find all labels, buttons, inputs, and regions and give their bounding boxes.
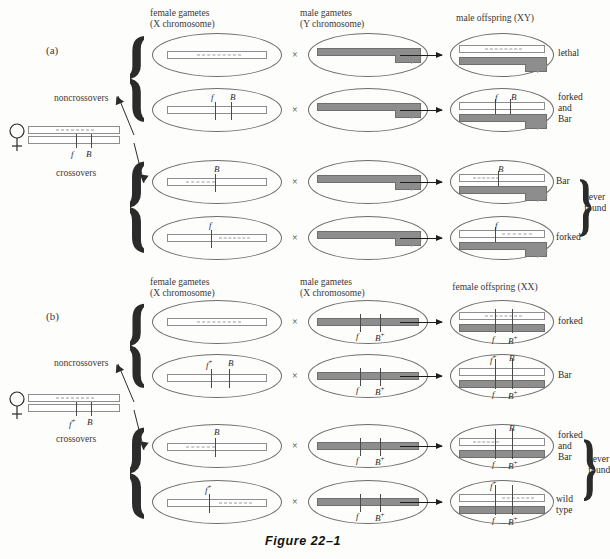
row1-offspring-x-maternal bbox=[459, 312, 545, 320]
row1-x-chromosome bbox=[167, 51, 267, 59]
panel-a-row1-arrow bbox=[400, 55, 442, 56]
row4-offspring-y bbox=[459, 242, 547, 258]
row2-offspring-gene-B-plus: B+ bbox=[508, 389, 517, 401]
row4-gene-label-f-plus: f+ bbox=[205, 483, 211, 495]
gene-tick-f bbox=[360, 368, 361, 386]
gene-tick-f-plus bbox=[209, 494, 210, 513]
row1-offspring-gene-f: f bbox=[492, 334, 495, 344]
panel-a-row4-arrow bbox=[400, 238, 442, 239]
panel-b-row4-offspring: f+ f B+ bbox=[450, 480, 554, 524]
panel-a-row1-cross-symbol: × bbox=[292, 49, 298, 60]
row3-male-gene-f: f bbox=[356, 455, 359, 465]
row1-offspring-x bbox=[459, 45, 545, 53]
row2-gene-label-f: f bbox=[211, 92, 214, 102]
row2-offspring-y bbox=[459, 114, 547, 130]
row2-gene-label-B: B bbox=[228, 358, 234, 368]
panel-b-parent: f+ B bbox=[6, 390, 126, 424]
panel-b-header-offspring: female offspring (XX) bbox=[430, 282, 560, 293]
panel-b-row2-female-gamete: f+ B bbox=[152, 354, 282, 398]
gene-tick-f bbox=[360, 494, 361, 512]
row3-offspring-gene-f: f bbox=[492, 459, 495, 469]
gene-tick-f-plus bbox=[211, 369, 212, 388]
panel-a-header-female-gametes: female gametes (X chromosome) bbox=[150, 8, 270, 30]
panel-b-crossovers-label: crossovers bbox=[56, 434, 96, 444]
gene-tick-B-plus bbox=[380, 438, 381, 456]
panel-b-row4-cross-symbol: × bbox=[292, 496, 298, 507]
row4-offspring-x-paternal bbox=[459, 506, 545, 514]
row4-offspring-gene-B-plus: B+ bbox=[508, 515, 517, 527]
panel-b-row3-offspring: B f B+ bbox=[450, 424, 554, 468]
gene-tick-B bbox=[231, 102, 232, 120]
row4-offspring-gene-f-plus: f+ bbox=[490, 479, 496, 491]
panel-b-never-found-note: never found bbox=[588, 454, 610, 476]
gene-tick-f bbox=[215, 102, 216, 120]
gene-tick-f-plus bbox=[76, 402, 77, 416]
row4-x-chromosome bbox=[167, 499, 267, 507]
row2-male-gene-B-plus: B+ bbox=[375, 385, 384, 397]
gene-tick-f bbox=[495, 309, 496, 333]
parent-gene-label-B: B bbox=[86, 149, 92, 159]
gene-tick-B bbox=[215, 174, 216, 192]
gene-tick-B-plus bbox=[512, 359, 513, 389]
row2-offspring-gene-f: f bbox=[495, 92, 498, 102]
row4-offspring-gene-f: f bbox=[495, 220, 498, 230]
panel-a-row1-offspring bbox=[450, 33, 554, 77]
row4-male-gene-B-plus: B+ bbox=[375, 511, 384, 523]
parent-gene-label-f: f bbox=[71, 149, 74, 159]
panel-b-row3-cross-symbol: × bbox=[292, 440, 298, 451]
panel-a-brace-noncrossovers: { bbox=[130, 24, 144, 122]
gene-tick-B-plus bbox=[380, 494, 381, 512]
row2-x-chromosome bbox=[167, 374, 267, 382]
panel-b-row1-arrow bbox=[400, 322, 442, 323]
panel-a-label: (a) bbox=[46, 44, 58, 56]
row2-gene-label-f-plus: f+ bbox=[206, 358, 212, 370]
row3-gene-label-B: B bbox=[214, 164, 220, 174]
panel-a-crossovers-label: crossovers bbox=[56, 168, 96, 178]
panel-a-never-found-note: never found bbox=[584, 192, 606, 214]
row1-y-chromosome bbox=[317, 48, 421, 66]
row2-offspring-gene-f-plus: f+ bbox=[490, 353, 496, 365]
panel-b-brace-crossovers: { bbox=[130, 416, 144, 520]
panel-b-header-male-gametes: male gametes (X chromosome) bbox=[300, 277, 420, 299]
row3-offspring-gene-B: B bbox=[509, 423, 515, 433]
panel-b-brace-noncrossovers: { bbox=[130, 292, 144, 388]
panel-a-row3-offspring: B bbox=[450, 160, 554, 204]
panel-a-row3-cross-symbol: × bbox=[292, 176, 298, 187]
gene-tick-f bbox=[495, 429, 496, 459]
panel-b-parent-chromosomes: f+ B bbox=[28, 394, 120, 412]
gene-tick-B bbox=[91, 134, 92, 148]
parent-chromosome-top bbox=[28, 394, 120, 402]
row1-offspring-y bbox=[459, 57, 547, 73]
row1-offspring-x-paternal bbox=[459, 324, 545, 332]
panel-a-row1-female-gamete bbox=[152, 33, 282, 77]
figure-caption: Figure 22–1 bbox=[0, 534, 606, 548]
row3-male-gene-B-plus: B+ bbox=[375, 455, 384, 467]
row1-male-gene-B-plus: B+ bbox=[375, 331, 384, 343]
row3-offspring-y bbox=[459, 186, 547, 202]
panel-b-row3-arrow bbox=[400, 446, 442, 447]
gene-tick-B bbox=[229, 369, 230, 388]
panel-a-row1-outcome: lethal bbox=[558, 48, 579, 59]
gene-tick-f bbox=[360, 438, 361, 456]
gene-tick-B-plus bbox=[380, 368, 381, 386]
panel-b-noncrossovers-label: noncrossovers bbox=[54, 358, 108, 368]
row3-offspring-x bbox=[459, 174, 545, 182]
panel-a-parent: f B bbox=[6, 122, 126, 156]
row4-gene-label-f: f bbox=[209, 220, 212, 230]
row4-offspring-x bbox=[459, 230, 545, 238]
gene-tick-B-plus bbox=[380, 314, 381, 332]
parent-gene-label-f-plus: f+ bbox=[69, 417, 75, 429]
gene-tick-B bbox=[91, 402, 92, 416]
panel-a-row3-outcome: Bar bbox=[556, 176, 570, 187]
row3-offspring-x-paternal bbox=[459, 450, 545, 458]
panel-a-row4-offspring: f bbox=[450, 216, 554, 260]
panel-b-row3-outcome: forked and Bar bbox=[558, 430, 583, 463]
gene-tick-f bbox=[211, 230, 212, 248]
panel-a-row3-female-gamete: B bbox=[152, 160, 282, 204]
row2-x-chromosome bbox=[167, 106, 267, 114]
panel-b-row3-female-gamete: B bbox=[152, 424, 282, 468]
female-symbol-icon bbox=[6, 390, 28, 420]
row3-gene-label-B: B bbox=[214, 427, 220, 437]
gene-tick-B-plus bbox=[512, 309, 513, 333]
gene-tick-f bbox=[360, 314, 361, 332]
